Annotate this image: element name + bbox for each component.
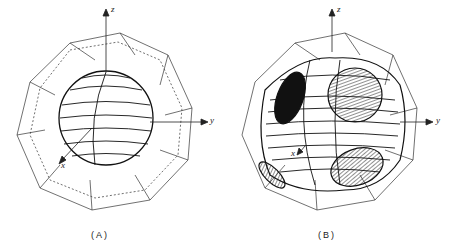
axis-label-x-a: x [61, 160, 65, 170]
panel-a-surface [59, 71, 153, 165]
panel-a-axes [59, 9, 208, 164]
axis-label-z-a: z [111, 4, 115, 14]
panel-b-surface [255, 58, 405, 193]
axis-label-z-b: z [337, 4, 341, 14]
black-contact [269, 68, 312, 128]
hatched-contact-left [255, 158, 289, 192]
hatched-contact-lower [325, 141, 388, 193]
panel-a-polyhedron [17, 33, 192, 210]
axis-label-y-a: y [210, 115, 214, 125]
figure-canvas [0, 0, 457, 249]
caption-a: (A) [91, 230, 109, 240]
axis-label-x-b: x [291, 148, 295, 158]
panel-b-polyhedron [242, 33, 417, 210]
caption-b: (B) [318, 230, 336, 240]
hatched-contact-upper [328, 68, 382, 122]
axis-label-y-b: y [436, 115, 440, 125]
